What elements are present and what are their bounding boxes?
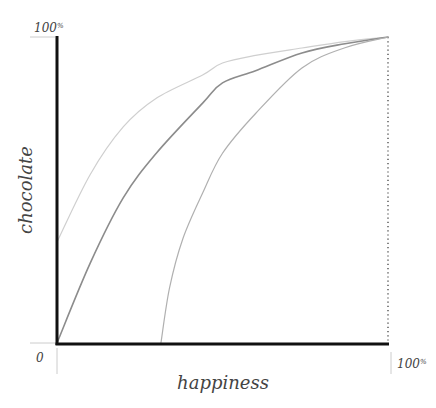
series-upper-curve — [57, 37, 388, 242]
chart: 100% 0 100% happiness chocolate — [0, 0, 436, 408]
series-lower-curve — [161, 37, 388, 343]
y-top-label: 100% — [34, 21, 64, 35]
series-middle-curve — [57, 37, 388, 343]
x-axis-title: happiness — [177, 372, 269, 393]
y-axis-title: chocolate — [15, 146, 36, 234]
x-origin-label: 0 — [36, 351, 44, 365]
series-layer — [57, 37, 388, 343]
x-right-label: 100% — [397, 357, 427, 371]
